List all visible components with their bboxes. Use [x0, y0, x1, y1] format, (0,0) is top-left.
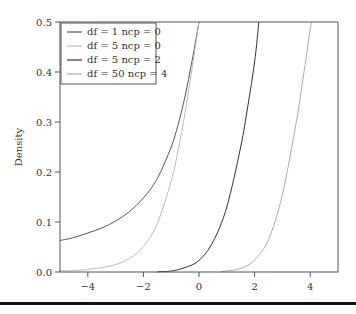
x-tick-label: 2 [251, 281, 257, 292]
y-axis-title: Density [13, 127, 24, 166]
series-line-2 [157, 22, 258, 272]
y-tick-label: 0.1 [36, 217, 52, 228]
legend: df = 1 ncp = 0df = 5 ncp = 0df = 5 ncp =… [61, 23, 167, 84]
y-tick-label: 0.3 [36, 117, 52, 128]
x-tick-label: 0 [196, 281, 202, 292]
x-tick-label: −4 [80, 281, 95, 292]
x-tick-label: 4 [307, 281, 313, 292]
y-tick-label: 0.4 [36, 67, 52, 78]
legend-label: df = 50 ncp = 4 [87, 68, 167, 79]
x-tick-label: −2 [136, 281, 151, 292]
y-tick-label: 0.2 [36, 167, 52, 178]
legend-label: df = 5 ncp = 2 [87, 54, 161, 65]
x-axis: −4−2024 [80, 272, 313, 292]
legend-label: df = 1 ncp = 0 [87, 26, 161, 37]
density-chart: 0.00.10.20.30.40.5 −4−2024 Density df = … [0, 0, 356, 314]
y-tick-label: 0.0 [36, 267, 52, 278]
y-axis: 0.00.10.20.30.40.5 [36, 17, 60, 278]
series-line-3 [221, 22, 311, 272]
bottom-rule [0, 302, 356, 305]
legend-label: df = 5 ncp = 0 [87, 40, 161, 51]
y-tick-label: 0.5 [36, 17, 52, 28]
